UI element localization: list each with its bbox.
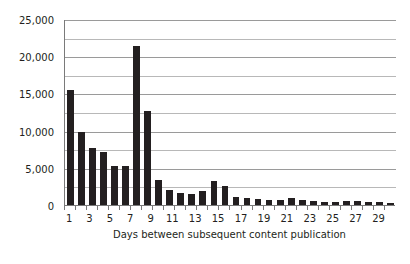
x-axis-tick-label [247, 211, 257, 227]
bar-slot [230, 19, 241, 205]
bar [332, 202, 339, 205]
x-axis-tick-label: 17 [235, 211, 248, 227]
x-axis-tick-label [385, 211, 395, 227]
bar [354, 201, 361, 205]
x-axis-tick-label [293, 211, 303, 227]
x-axis-tick-label [179, 211, 189, 227]
bar-slot [219, 19, 230, 205]
bar-series [65, 19, 396, 205]
x-axis-tick-label: 11 [166, 211, 179, 227]
y-axis-tick-label: 10,000 [0, 126, 54, 137]
bar-slot [264, 19, 275, 205]
bar [166, 190, 173, 205]
bar-slot [341, 19, 352, 205]
bar-slot [319, 19, 330, 205]
bar [244, 198, 251, 205]
bar-slot [65, 19, 76, 205]
bar-slot [164, 19, 175, 205]
bar-slot [286, 19, 297, 205]
x-axis-title: Days between subsequent content publicat… [64, 229, 395, 240]
bar [387, 203, 394, 205]
bar [78, 132, 85, 205]
bar [376, 202, 383, 205]
bar [365, 202, 372, 205]
y-axis-tick-label: 0 [0, 201, 54, 212]
bar-slot [297, 19, 308, 205]
bar-slot [175, 19, 186, 205]
x-axis-tick-label: 1 [64, 211, 74, 227]
x-axis-tick-label: 7 [125, 211, 135, 227]
x-axis-tick-label [95, 211, 105, 227]
bar [266, 200, 273, 205]
x-axis-tick-label: 13 [189, 211, 202, 227]
x-axis-tick-label: 3 [84, 211, 94, 227]
bar-slot [363, 19, 374, 205]
bar [222, 186, 229, 205]
bar [288, 198, 295, 205]
bar-slot [153, 19, 164, 205]
x-axis-tick-label [135, 211, 145, 227]
x-axis-tick-label [224, 211, 234, 227]
bar-slot [352, 19, 363, 205]
bar-slot [131, 19, 142, 205]
x-axis-tick-label [74, 211, 84, 227]
x-axis-tick-label [156, 211, 166, 227]
x-axis-tick-label [115, 211, 125, 227]
bar [89, 148, 96, 205]
x-axis-tick-label [316, 211, 326, 227]
bar [299, 200, 306, 205]
bar-slot [308, 19, 319, 205]
bar [277, 200, 284, 205]
bar-slot [242, 19, 253, 205]
bar-slot [208, 19, 219, 205]
bar-slot [142, 19, 153, 205]
x-axis-tick-label: 19 [258, 211, 271, 227]
bar [188, 194, 195, 205]
x-axis-tick-label: 23 [303, 211, 316, 227]
bar [111, 166, 118, 205]
bar-slot [374, 19, 385, 205]
bar-slot [385, 19, 396, 205]
plot-area [64, 20, 395, 206]
x-axis-tick-label [339, 211, 349, 227]
bar [233, 197, 240, 205]
bar-slot [87, 19, 98, 205]
bar-slot [76, 19, 87, 205]
bar-slot [330, 19, 341, 205]
bar [343, 201, 350, 205]
bar [199, 191, 206, 205]
bar-slot [253, 19, 264, 205]
x-axis-tick-label [362, 211, 372, 227]
bar-slot [109, 19, 120, 205]
bar [100, 152, 107, 205]
bar [67, 90, 74, 205]
bar [310, 201, 317, 205]
bar [321, 202, 328, 205]
bar [133, 46, 140, 205]
bar [255, 199, 262, 205]
x-axis-tick-label [270, 211, 280, 227]
bar-slot [275, 19, 286, 205]
y-axis-tick-label: 5,000 [0, 163, 54, 174]
x-axis-tick-label: 21 [280, 211, 293, 227]
x-axis-tick-label: 27 [349, 211, 362, 227]
y-axis-tick-label: 15,000 [0, 89, 54, 100]
y-axis-tick-label: 25,000 [0, 15, 54, 26]
x-axis-tick-label [202, 211, 212, 227]
bar-slot [98, 19, 109, 205]
bar [155, 180, 162, 205]
y-axis-tick-labels: 05,00010,00015,00020,00025,000 [0, 0, 58, 264]
x-axis-tick-label: 15 [212, 211, 225, 227]
x-axis-tick-labels: 1357911131517192123252729 [64, 211, 395, 227]
x-axis-tick-label: 9 [146, 211, 156, 227]
x-axis-tick-label: 29 [372, 211, 385, 227]
bar [177, 193, 184, 205]
frequency-bar-chart: Frequency 05,00010,00015,00020,00025,000… [0, 0, 410, 264]
y-axis-tick-label: 20,000 [0, 52, 54, 63]
bar-slot [197, 19, 208, 205]
bar-slot [186, 19, 197, 205]
bar [122, 166, 129, 205]
x-axis-tick-label: 5 [105, 211, 115, 227]
bar [144, 111, 151, 205]
x-axis-tick-label: 25 [326, 211, 339, 227]
